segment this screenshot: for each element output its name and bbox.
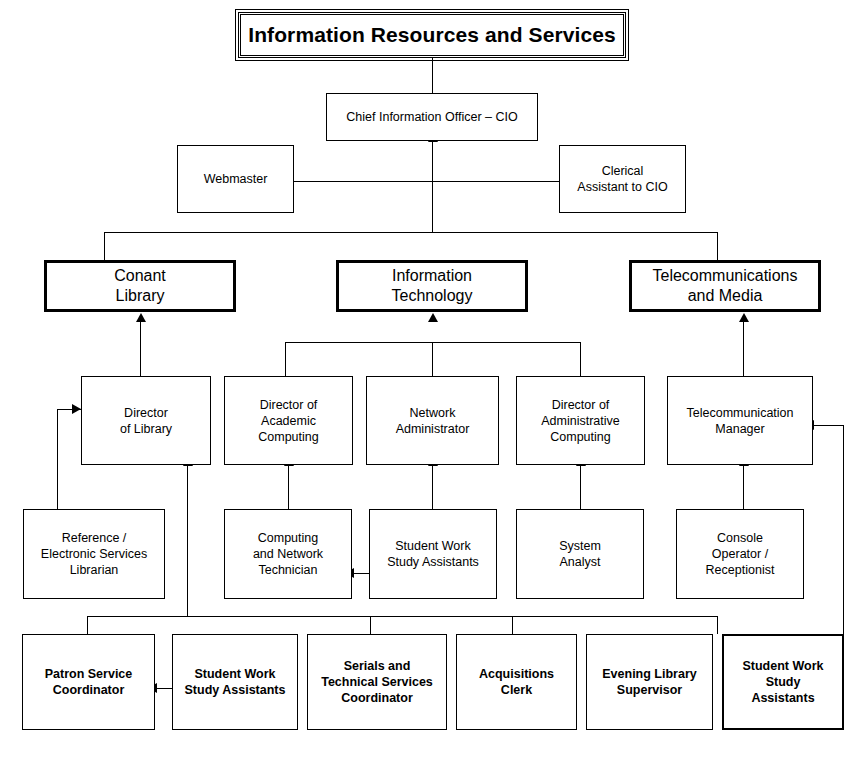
connector-title-to-cio [432,58,433,93]
node-chief-information-officer[interactable]: Chief Information Officer – CIO [326,93,538,141]
node-label: Director of Administrative Computing [517,397,644,445]
node-label: Acquisitions Clerk [457,666,576,698]
node-director-of-library[interactable]: Director of Library [81,376,211,465]
connector-divisions-to-cio [432,141,433,233]
node-computing-and-network-technician[interactable]: Computing and Network Technician [224,509,352,599]
node-label: Clerical Assistant to CIO [560,163,685,195]
node-webmaster[interactable]: Webmaster [177,145,294,213]
node-label: Console Operator / Receptionist [677,530,803,578]
connector-student-library-to-patron-service [155,688,172,689]
node-label: Telecommunication Manager [668,405,812,437]
node-student-work-study-assistants-telecom[interactable]: Student Work Study Assistants [722,634,844,730]
node-information-technology[interactable]: Information Technology [336,260,528,312]
node-label: Director of Library [82,405,210,437]
connector-it-manager-bus [285,342,580,343]
node-reference-electronic-services-librarian[interactable]: Reference / Electronic Services Libraria… [23,509,165,599]
connector-library-bus-to-director-of-library [187,465,188,616]
node-label: Information Resources and Services [241,22,623,49]
connector-computing-technician-to-director-academic [288,465,289,509]
node-label: Evening Library Supervisor [587,666,712,698]
connector-library-bottom-bus [87,616,717,617]
connector-webmaster-to-stem [294,181,432,182]
connector-director-library-to-conant [140,322,141,376]
arrowhead-into-conant-library [136,313,146,322]
connector-telecom-manager-to-telecom-division [743,322,744,376]
node-label: Webmaster [178,171,293,187]
node-evening-library-supervisor[interactable]: Evening Library Supervisor [586,634,713,730]
connector-bus-to-serials [370,616,371,634]
arrowhead-into-information-technology [428,313,438,322]
node-director-of-academic-computing[interactable]: Director of Academic Computing [224,376,353,465]
node-label: Serials and Technical Services Coordinat… [308,658,446,706]
connector-bus-to-acquisitions [512,616,513,634]
connector-bus-to-patron-service [87,616,88,634]
node-label: Computing and Network Technician [225,530,351,578]
connector-console-operator-to-telecom-manager [743,465,744,509]
node-clerical-assistant-to-cio[interactable]: Clerical Assistant to CIO [559,145,686,213]
connector-it-bus-to-it-division [432,342,433,376]
node-network-administrator[interactable]: Network Administrator [366,376,499,465]
node-label: Student Work Study Assistants [370,538,496,570]
arrowhead-into-director-of-library-left [72,404,81,414]
connector-bus-to-director-academic [285,342,286,376]
connector-bus-to-evening-supervisor [717,616,718,634]
node-label: System Analyst [517,538,643,570]
node-label: Director of Academic Computing [225,397,352,445]
node-director-of-administrative-computing[interactable]: Director of Administrative Computing [516,376,645,465]
arrowhead-into-telecom-media [739,313,749,322]
connector-bus-to-conant [104,232,105,260]
node-console-operator-receptionist[interactable]: Console Operator / Receptionist [676,509,804,599]
node-student-work-study-assistants-library[interactable]: Student Work Study Assistants [172,634,298,730]
connector-riser-to-telecom-manager [812,425,843,426]
node-label: Student Work Study Assistants [724,658,842,706]
node-label: Chief Information Officer – CIO [327,109,537,125]
node-conant-library[interactable]: Conant Library [44,260,236,312]
connector-division-bus [104,232,717,233]
node-patron-service-coordinator[interactable]: Patron Service Coordinator [22,634,155,730]
node-label: Patron Service Coordinator [23,666,154,698]
connector-student-it-to-computing-technician [352,573,369,574]
node-information-resources-and-services[interactable]: Information Resources and Services [238,12,626,58]
node-label: Reference / Electronic Services Libraria… [24,530,164,578]
connector-student-telecom-riser [843,425,844,634]
node-label: Information Technology [339,266,525,307]
node-label: Conant Library [47,266,233,307]
connector-system-analyst-to-director-administrative [580,465,581,509]
connector-bus-to-director-administrative [580,342,581,376]
node-acquisitions-clerk[interactable]: Acquisitions Clerk [456,634,577,730]
node-telecommunication-manager[interactable]: Telecommunication Manager [667,376,813,465]
node-label: Network Administrator [367,405,498,437]
node-student-work-study-assistants-it[interactable]: Student Work Study Assistants [369,509,497,599]
connector-stem-to-clerical [432,181,559,182]
connector-reference-librarian-riser [57,409,58,510]
node-serials-and-technical-services-coordinator[interactable]: Serials and Technical Services Coordinat… [307,634,447,730]
node-telecommunications-and-media[interactable]: Telecommunications and Media [629,260,821,312]
connector-student-it-to-network-admin [432,465,433,509]
node-label: Telecommunications and Media [632,266,818,307]
connector-bus-to-telecom [717,232,718,260]
org-chart-canvas: Information Resources and Services Chief… [0,0,866,761]
node-system-analyst[interactable]: System Analyst [516,509,644,599]
node-label: Student Work Study Assistants [173,666,297,698]
